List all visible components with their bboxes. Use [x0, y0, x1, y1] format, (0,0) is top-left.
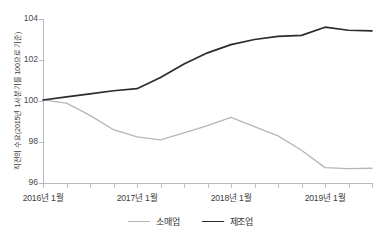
- legend-item-소매업[interactable]: 소매업: [128, 215, 179, 228]
- y-tick-label: 98: [8, 136, 38, 146]
- x-tick-label: 2018년 1월: [191, 191, 271, 203]
- x-tick-mark: [43, 184, 44, 188]
- series-line-소매업: [43, 100, 372, 169]
- chart-legend: 소매업제조업: [0, 215, 381, 228]
- line-chart: 직전의 수요(2015년 1사분기를 100으로 기준) 96981001021…: [0, 0, 381, 235]
- y-tick-label: 102: [8, 54, 38, 64]
- x-tick-mark: [255, 184, 256, 188]
- x-tick-mark: [325, 184, 326, 188]
- y-tick-label: 100: [8, 95, 38, 105]
- x-tick-mark: [278, 184, 279, 188]
- x-tick-label: 2019년 1월: [285, 191, 365, 203]
- x-tick-label: 2016년 1월: [3, 191, 83, 203]
- x-tick-mark: [372, 184, 373, 188]
- series-line-제조업: [43, 27, 372, 100]
- legend-label: 제조업: [230, 215, 253, 228]
- x-tick-mark: [349, 184, 350, 188]
- legend-swatch-icon: [128, 221, 150, 222]
- x-tick-mark: [90, 184, 91, 188]
- plot-area: [43, 19, 372, 183]
- x-tick-mark: [208, 184, 209, 188]
- y-tick-label: 104: [8, 13, 38, 23]
- x-tick-mark: [184, 184, 185, 188]
- legend-item-제조업[interactable]: 제조업: [202, 215, 253, 228]
- x-tick-mark: [137, 184, 138, 188]
- x-tick-mark: [161, 184, 162, 188]
- x-tick-mark: [67, 184, 68, 188]
- x-tick-mark: [302, 184, 303, 188]
- x-tick-mark: [231, 184, 232, 188]
- legend-swatch-icon: [202, 221, 224, 222]
- legend-label: 소매업: [156, 215, 179, 228]
- y-tick-label: 96: [8, 177, 38, 187]
- x-tick-label: 2017년 1월: [97, 191, 177, 203]
- series-lines: [43, 19, 372, 183]
- x-tick-mark: [114, 184, 115, 188]
